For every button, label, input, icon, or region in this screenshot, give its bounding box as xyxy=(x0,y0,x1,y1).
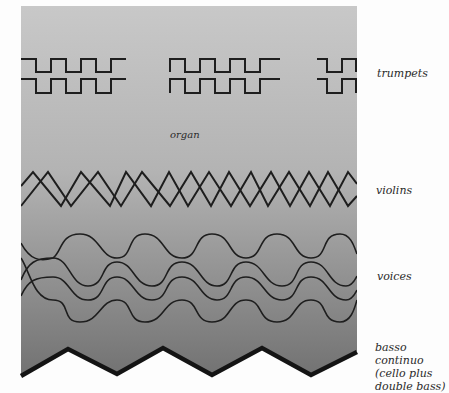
violins-label: violins xyxy=(376,184,412,197)
trumpets-label: trumpets xyxy=(377,67,428,80)
basso-continuo-label: basso continuo (cello plus double bass) xyxy=(375,341,449,393)
organ-label: organ xyxy=(170,129,200,140)
voices-label: voices xyxy=(377,270,412,283)
